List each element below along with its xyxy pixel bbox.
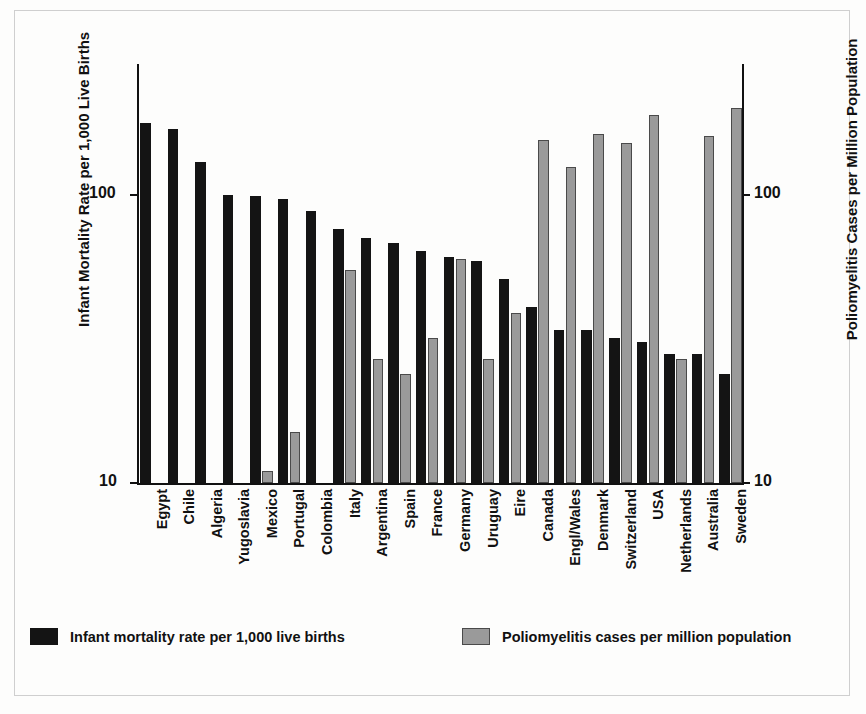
x-axis-label-canada: Canada <box>540 489 556 541</box>
x-axis-label-italy: Italy <box>347 489 363 518</box>
bar <box>649 115 660 483</box>
y-axis-left-tick-label: 10 <box>99 472 117 490</box>
bar <box>538 140 549 483</box>
bar <box>637 342 648 484</box>
bar <box>456 259 467 483</box>
x-axis-label-engl-wales: Engl/Wales <box>567 489 583 566</box>
bar <box>483 359 494 483</box>
bar <box>400 374 411 484</box>
legend-label-poliomyelitis: Poliomyelitis cases per million populati… <box>502 629 791 645</box>
bar <box>262 471 273 483</box>
x-axis-label-netherlands: Netherlands <box>678 489 694 573</box>
x-axis-label-colombia: Colombia <box>319 489 335 555</box>
legend-swatch-poliomyelitis <box>462 628 490 645</box>
bar <box>345 270 356 483</box>
x-axis-category-labels: EgyptChileAlgeriaYugoslaviaMexicoPortuga… <box>137 489 744 609</box>
bar <box>692 354 703 483</box>
bar <box>361 238 372 483</box>
bar <box>140 123 151 483</box>
bar <box>609 338 620 483</box>
y-axis-right-tick-label: 10 <box>754 472 772 490</box>
legend-item-poliomyelitis: Poliomyelitis cases per million populati… <box>462 628 791 645</box>
bar <box>664 354 675 483</box>
x-axis-label-switzerland: Switzerland <box>623 489 639 570</box>
x-axis-label-australia: Australia <box>705 489 721 551</box>
bar <box>499 279 510 483</box>
x-axis-label-denmark: Denmark <box>595 489 611 551</box>
y-axis-right-title: Poliomyelitis Cases per Million Populati… <box>843 0 862 404</box>
x-axis-label-eire: Eire <box>512 489 528 516</box>
bar <box>511 313 522 483</box>
bar <box>428 338 439 483</box>
bar <box>278 199 289 483</box>
bar <box>554 330 565 483</box>
legend-label-infant-mortality: Infant mortality rate per 1,000 live bir… <box>70 629 345 645</box>
y-axis-left-title: Infant Mortality Rate per 1,000 Live Bir… <box>75 29 94 329</box>
bar <box>719 374 730 484</box>
bar <box>566 167 577 483</box>
bar <box>444 257 455 483</box>
x-axis-label-portugal: Portugal <box>291 489 307 548</box>
y-axis-left-tick-label: 100 <box>89 184 116 202</box>
bar <box>526 307 537 483</box>
x-axis-label-yugoslavia: Yugoslavia <box>236 489 252 565</box>
x-axis-label-spain: Spain <box>402 489 418 528</box>
x-axis-label-mexico: Mexico <box>264 489 280 538</box>
bar <box>581 330 592 483</box>
x-axis-label-algeria: Algeria <box>209 489 225 538</box>
bar <box>223 195 234 483</box>
bar <box>195 162 206 483</box>
bar <box>593 134 604 483</box>
bar <box>704 136 715 483</box>
bars-group <box>137 64 744 484</box>
legend-item-infant-mortality: Infant mortality rate per 1,000 live bir… <box>30 628 345 645</box>
legend-swatch-infant-mortality <box>30 628 58 645</box>
x-axis-label-germany: Germany <box>457 489 473 552</box>
x-axis-label-egypt: Egypt <box>154 489 170 529</box>
bar <box>416 251 427 483</box>
bar <box>621 143 632 483</box>
x-axis-label-uruguay: Uruguay <box>485 489 501 548</box>
bar <box>676 359 687 483</box>
bar <box>731 108 742 483</box>
x-axis-label-usa: USA <box>650 489 666 520</box>
x-axis-label-france: France <box>429 489 445 537</box>
x-axis-label-sweden: Sweden <box>733 489 749 544</box>
bar <box>290 432 301 483</box>
bar <box>373 359 384 483</box>
chart-figure: Infant Mortality Rate per 1,000 Live Bir… <box>0 0 866 714</box>
bar <box>250 196 261 483</box>
x-axis-label-chile: Chile <box>181 489 197 524</box>
chart-legend: Infant mortality rate per 1,000 live bir… <box>30 628 840 662</box>
bar <box>333 229 344 483</box>
bar <box>388 243 399 483</box>
plot-area: 10100 10100 <box>137 64 744 484</box>
bar <box>168 129 179 483</box>
x-axis-label-argentina: Argentina <box>374 489 390 557</box>
y-axis-right-tick-label: 100 <box>754 184 781 202</box>
bar <box>306 211 317 483</box>
bar <box>471 261 482 483</box>
